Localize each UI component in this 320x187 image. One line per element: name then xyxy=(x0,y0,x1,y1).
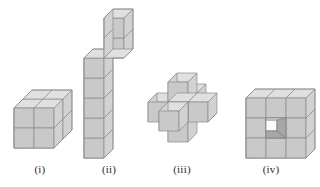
captions: (i) (ii) (iii) (iv) xyxy=(0,162,320,184)
caption-ii: (ii) xyxy=(89,162,129,176)
solid-iii xyxy=(148,73,217,142)
caption-iii: (iii) xyxy=(162,162,202,176)
cube-hole xyxy=(266,118,286,138)
caption-iv: (iv) xyxy=(251,162,291,176)
caption-i: (i) xyxy=(20,162,60,176)
solids-illustration: .top { fill:#e0e0e0; stroke:#8a8a8a; str… xyxy=(0,0,320,187)
solid-i xyxy=(14,90,72,148)
solid-iv xyxy=(246,89,315,158)
solid-ii xyxy=(84,9,133,158)
cube-solids-figure: .top { fill:#e0e0e0; stroke:#8a8a8a; str… xyxy=(0,0,320,187)
